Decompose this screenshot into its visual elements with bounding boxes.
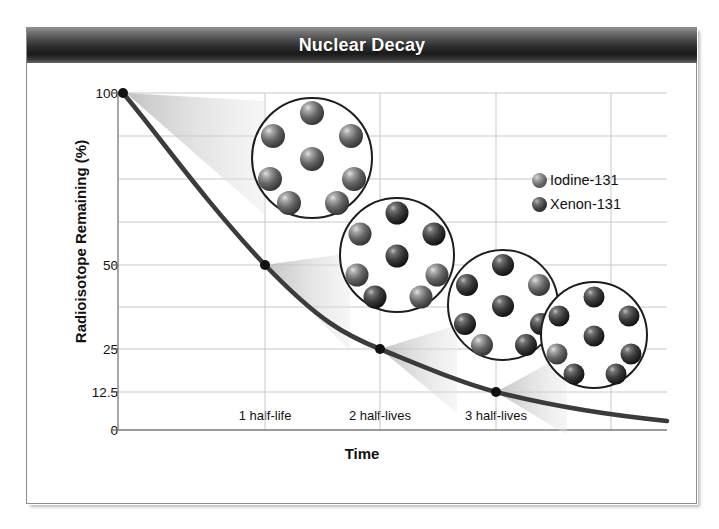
cone-1 — [265, 253, 350, 351]
atom-bubble-1 — [340, 198, 454, 312]
data-point-0 — [118, 88, 128, 98]
sphere-icon — [532, 197, 547, 212]
legend-label-xenon: Xenon-131 — [550, 196, 621, 212]
page-title: Nuclear Decay — [299, 35, 426, 56]
decay-chart-svg — [27, 63, 697, 504]
data-point-1 — [260, 260, 270, 270]
figure-root: Nuclear Decay Radioisotope Remaining (%)… — [0, 0, 719, 529]
title-banner: Nuclear Decay — [27, 28, 697, 63]
atom-bubble-0 — [252, 98, 372, 218]
y-axis-ticks — [111, 93, 118, 430]
cone-2 — [380, 325, 457, 413]
cone-0 — [126, 93, 265, 215]
data-point-2 — [375, 344, 385, 354]
chart-plot-area: Radioisotope Remaining (%) Time 100 50 2… — [27, 63, 697, 504]
atom-bubble-3 — [541, 282, 647, 388]
legend-item-iodine: Iodine-131 — [532, 168, 621, 192]
legend-item-xenon: Xenon-131 — [532, 192, 621, 216]
legend-label-iodine: Iodine-131 — [550, 172, 619, 188]
sphere-icon — [532, 173, 547, 188]
data-point-3 — [491, 387, 501, 397]
legend: Iodine-131 Xenon-131 — [532, 168, 621, 216]
